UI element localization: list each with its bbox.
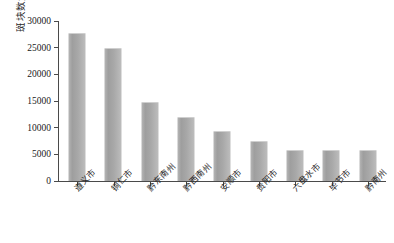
- y-tick-label: 30000: [27, 15, 51, 27]
- y-tick-label: 25000: [27, 42, 51, 54]
- y-tick-mark: [54, 47, 58, 48]
- y-tick: 15000: [2, 95, 58, 107]
- y-tick-mark: [54, 154, 58, 155]
- y-tick: 20000: [2, 68, 58, 80]
- y-tick: 0: [2, 175, 58, 187]
- y-tick: 30000: [2, 15, 58, 27]
- y-tick-mark: [54, 74, 58, 75]
- y-tick-mark: [54, 127, 58, 128]
- y-tick-label: 5000: [32, 148, 51, 160]
- y-tick: 25000: [2, 42, 58, 54]
- bar[interactable]: [69, 33, 86, 181]
- y-tick-mark: [54, 101, 58, 102]
- y-tick-label: 20000: [27, 68, 51, 80]
- y-tick-label: 0: [46, 175, 51, 187]
- y-tick-mark: [54, 21, 58, 22]
- bar-chart-figure: 斑块数量变化/个 050001000015000200002500030000 …: [0, 0, 394, 243]
- x-axis-labels: 遵义市铜仁市黔东南州黔西南州安顺市贵阳市六盘水市毕节市黔南州: [58, 186, 388, 242]
- y-tick-label: 15000: [27, 95, 51, 107]
- y-tick: 5000: [2, 148, 58, 160]
- bar-slot: [59, 21, 95, 181]
- y-tick: 10000: [2, 122, 58, 134]
- y-tick-mark: [54, 181, 58, 182]
- y-tick-label: 10000: [27, 122, 51, 134]
